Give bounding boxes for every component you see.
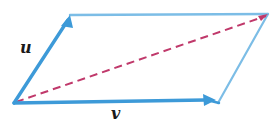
vector-parallelogram-figure: u v	[0, 0, 276, 126]
diagonal-sum-vector	[16, 16, 266, 102]
parallelogram-right-edge	[218, 14, 268, 103]
vector-v-label: v	[111, 106, 120, 122]
vector-v-shaft	[14, 100, 205, 103]
vector-u-arrowhead	[61, 15, 73, 28]
parallelogram-top-edge	[70, 14, 268, 15]
vector-u-label: u	[20, 40, 32, 56]
vector-v-arrowhead	[203, 94, 216, 106]
figure-canvas	[0, 0, 276, 126]
vector-u-shaft	[14, 20, 68, 103]
